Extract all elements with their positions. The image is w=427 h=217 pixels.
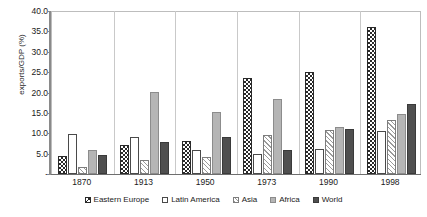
bar-africa-1950 — [212, 112, 221, 174]
bar-asia-1950 — [202, 157, 211, 174]
bar-africa-1870 — [88, 150, 97, 174]
bar-africa-1973 — [273, 99, 282, 174]
bar-group — [114, 11, 176, 174]
bar-latin-america-1950 — [192, 150, 201, 174]
legend-label: Asia — [242, 196, 258, 204]
bar-eastern-europe-1990 — [305, 72, 314, 174]
bar-world-1998 — [407, 104, 416, 174]
bar-group — [175, 11, 237, 174]
bar-group — [360, 11, 422, 174]
bar-group — [52, 11, 114, 174]
bar-eastern-europe-1913 — [120, 145, 129, 174]
x-tick-label: 1913 — [119, 177, 169, 187]
plot-area — [51, 11, 421, 175]
legend-swatch-icon — [270, 197, 276, 203]
bar-world-1973 — [283, 150, 292, 174]
x-tick-label: 1998 — [365, 177, 415, 187]
x-tick-label: 1973 — [242, 177, 292, 187]
y-tick-label: 25.0 — [31, 68, 48, 76]
chart-legend: Eastern EuropeLatin AmericaAsiaAfricaWor… — [0, 196, 427, 204]
bar-group — [237, 11, 299, 174]
legend-swatch-icon — [85, 197, 91, 203]
bar-asia-1913 — [140, 160, 149, 174]
y-tick-label: 20.0 — [31, 89, 48, 97]
bar-group — [299, 11, 361, 174]
bar-world-1870 — [98, 155, 107, 174]
bar-eastern-europe-1973 — [243, 78, 252, 174]
bar-asia-1998 — [387, 120, 396, 174]
legend-label: Africa — [279, 196, 299, 204]
bar-eastern-europe-1950 — [182, 141, 191, 174]
bar-chart: exports/GDP (%) 40.035.030.025.020.015.0… — [0, 0, 427, 217]
bar-eastern-europe-1998 — [367, 27, 376, 174]
x-tick-label: 1870 — [57, 177, 107, 187]
bar-latin-america-1870 — [68, 134, 77, 174]
y-tick-label: 15.0 — [31, 109, 48, 117]
bar-world-1913 — [160, 142, 169, 174]
bar-world-1990 — [345, 129, 354, 174]
bar-latin-america-1990 — [315, 149, 324, 174]
legend-label: World — [322, 196, 343, 204]
y-tick-label: 5.0 — [36, 150, 48, 158]
bar-latin-america-1973 — [253, 154, 262, 174]
x-axis-line — [51, 174, 421, 175]
y-axis-ticks: 40.035.030.025.020.015.010.05.0- — [18, 0, 48, 217]
x-tick-label: 1950 — [180, 177, 230, 187]
y-tick-label: 30.0 — [31, 48, 48, 56]
y-tick-label: 10.0 — [31, 129, 48, 137]
x-axis-ticks: 187019131950197319901998 — [51, 177, 421, 191]
legend-label: Latin America — [171, 196, 219, 204]
bar-asia-1990 — [325, 130, 334, 174]
legend-item-world: World — [313, 196, 343, 204]
bar-world-1950 — [222, 137, 231, 174]
bar-asia-1973 — [263, 135, 272, 174]
bar-africa-1998 — [397, 114, 406, 174]
legend-label: Eastern Europe — [94, 196, 150, 204]
legend-swatch-icon — [162, 197, 168, 203]
bar-africa-1990 — [335, 127, 344, 174]
legend-swatch-icon — [313, 197, 319, 203]
legend-item-eastern-europe: Eastern Europe — [85, 196, 150, 204]
y-tick-label: 40.0 — [31, 7, 48, 15]
bar-africa-1913 — [150, 92, 159, 174]
legend-item-africa: Africa — [270, 196, 299, 204]
bar-latin-america-1998 — [377, 131, 386, 174]
bar-latin-america-1913 — [130, 137, 139, 174]
x-tick-label: 1990 — [304, 177, 354, 187]
y-tick-label: 35.0 — [31, 27, 48, 35]
bar-asia-1870 — [78, 167, 87, 174]
bar-eastern-europe-1870 — [58, 156, 67, 174]
legend-item-asia: Asia — [233, 196, 258, 204]
legend-item-latin-america: Latin America — [162, 196, 219, 204]
legend-swatch-icon — [233, 197, 239, 203]
